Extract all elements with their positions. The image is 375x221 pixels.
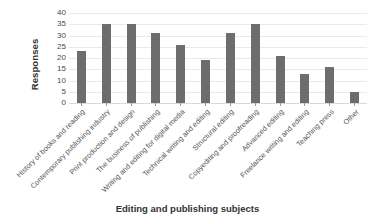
x-tick-mark [131,103,132,106]
x-tick-mark [155,103,156,106]
bar-slot [119,13,144,103]
y-axis-tick-label: 25 [57,43,66,51]
bar-slot [193,13,218,103]
x-tick-mark [180,103,181,106]
y-axis-tick-labels: 4035302520151050 [46,13,66,103]
bar-slot [143,13,168,103]
bar [77,51,86,103]
x-tick-mark [230,103,231,106]
bar [176,45,185,104]
bar [325,67,334,103]
x-axis-title: Editing and publishing subjects [0,203,375,214]
category-label: Other [342,108,360,126]
y-axis-tick-label: 15 [57,65,66,73]
y-axis-title-text: Responses [30,38,41,90]
x-tick-mark [329,103,330,106]
bar-slot [292,13,317,103]
bar [201,60,210,103]
category-label-slot: Other [342,107,367,193]
x-tick-mark [106,103,107,106]
y-axis-tick-label: 5 [62,88,66,96]
x-tick-mark [280,103,281,106]
bar-slot [243,13,268,103]
bar [151,33,160,103]
bar [102,24,111,103]
x-tick-mark [205,103,206,106]
bar [300,74,309,103]
y-axis-tick-label: 30 [57,32,66,40]
y-axis-tick-label: 40 [57,9,66,17]
bar [251,24,260,103]
y-axis-tick-label: 35 [57,20,66,28]
bar-chart: Responses 4035302520151050 History of bo… [0,0,375,221]
x-tick-mark [304,103,305,106]
bar-slot [69,13,94,103]
y-axis-tick-label: 10 [57,77,66,85]
bar [226,33,235,103]
bar-slot [342,13,367,103]
y-axis-tick-label: 0 [62,99,66,107]
bar-slot [268,13,293,103]
bar [127,24,136,103]
bar-slot [94,13,119,103]
bar [350,92,359,103]
bar [276,56,285,103]
x-tick-mark [354,103,355,106]
x-tick-mark [81,103,82,106]
plot-area [69,13,367,103]
bar-slot [317,13,342,103]
y-axis-tick-label: 20 [57,54,66,62]
bar-series [69,13,367,103]
category-label-slot: Teaching press [317,107,342,193]
bar-slot [218,13,243,103]
x-axis-category-labels: History of books and readingContemporary… [69,107,367,193]
x-tick-mark [255,103,256,106]
category-label-slot: Freelance writing and editing [292,107,317,193]
y-axis-title: Responses [28,18,42,110]
bar-slot [168,13,193,103]
